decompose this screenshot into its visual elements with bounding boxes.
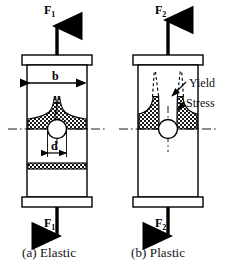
- grip-bar-top-a: [22, 55, 92, 65]
- figure-root: F1 F1 F2 F2 b d Yield Stress (a) Elastic…: [0, 0, 241, 274]
- dimension-label-hole-d: d: [51, 139, 58, 154]
- grip-bar-bottom-b: [133, 197, 203, 207]
- panel-caption-plastic: (b) Plastic: [131, 245, 185, 261]
- stress-distribution-figure: [0, 0, 241, 274]
- hatched-section-band-a: [28, 163, 86, 169]
- grip-bar-bottom-a: [22, 197, 92, 207]
- force-label-top-a: F1: [44, 3, 55, 19]
- callout-label-stress: Stress: [186, 96, 215, 111]
- force-label-bottom-b-sub: 2: [162, 223, 166, 232]
- grip-bar-top-b: [133, 55, 203, 65]
- panel-caption-elastic: (a) Elastic: [22, 245, 76, 261]
- center-hole-a: [48, 120, 67, 139]
- center-hole-b: [159, 120, 178, 139]
- force-label-bottom-b: F2: [155, 216, 166, 232]
- force-label-bottom-a: F1: [44, 216, 55, 232]
- force-label-top-a-sub: 1: [51, 10, 55, 19]
- force-label-top-b-sub: 2: [162, 10, 166, 19]
- force-label-bottom-a-sub: 1: [51, 223, 55, 232]
- dimension-label-width-b: b: [52, 69, 59, 84]
- force-label-top-b: F2: [155, 3, 166, 19]
- callout-label-yield: Yield: [189, 76, 215, 91]
